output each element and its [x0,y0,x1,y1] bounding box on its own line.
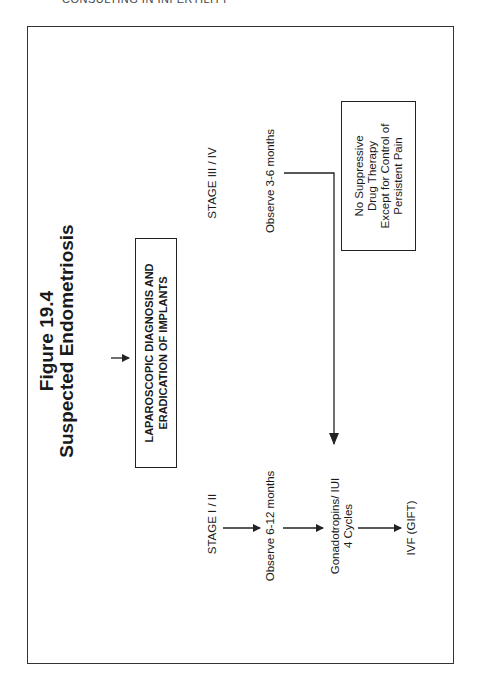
diagram-canvas: Figure 19.4 Suspected Endometriosis LAPA… [28,27,454,664]
arrow-observe-late-to-gonadotropins-icon [284,173,334,444]
running-header: CONSULTING IN INFERTILITY [62,0,229,5]
figure-frame: Figure 19.4 Suspected Endometriosis LAPA… [27,26,454,664]
connectors [28,27,454,664]
